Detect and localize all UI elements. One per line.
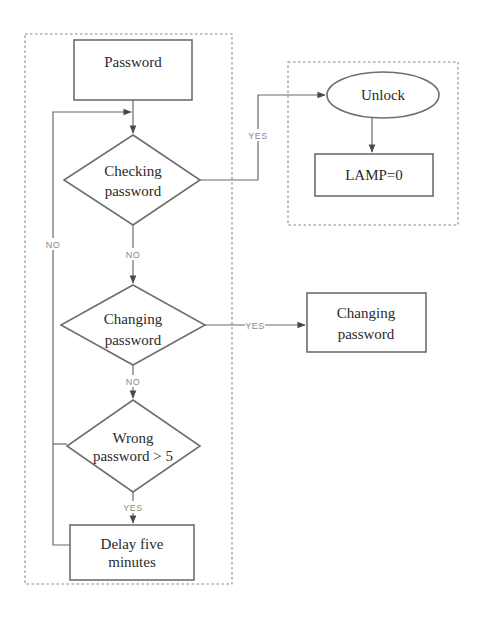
node-unlock-label: Unlock — [361, 87, 406, 103]
node-changing-action-line1: Changing — [337, 305, 396, 321]
node-changing-action-line2: password — [338, 326, 395, 342]
node-checking-line1: Checking — [104, 163, 162, 179]
edge-label-changing-yes: YES — [245, 321, 265, 331]
node-delay-five-minutes: Delay five minutes — [70, 525, 194, 580]
node-wrong-password-decision: Wrong password > 5 — [67, 400, 200, 492]
node-changing-password-decision: Changing password — [61, 285, 205, 365]
node-checking-line2: password — [105, 183, 162, 199]
edge-label-checking-yes: YES — [248, 131, 268, 141]
edge-label-changing-no: NO — [126, 377, 141, 387]
edge-label-wrong-yes: YES — [123, 503, 143, 513]
node-wrong-line1: Wrong — [112, 430, 154, 446]
flowchart-diagram: YES NO YES NO YES NO Password Checking p… — [0, 0, 483, 618]
node-delay-line2: minutes — [108, 554, 156, 570]
node-unlock: Unlock — [327, 72, 439, 118]
edge-label-wrong-no: NO — [46, 240, 61, 250]
node-password: Password — [74, 40, 192, 100]
node-changing-password-action: Changing password — [307, 293, 426, 352]
node-lamp: LAMP=0 — [315, 154, 433, 196]
node-password-label: Password — [104, 54, 162, 70]
edge-label-checking-no: NO — [126, 250, 141, 260]
node-delay-line1: Delay five — [101, 536, 164, 552]
node-wrong-line2: password > 5 — [93, 448, 173, 464]
node-changing-decision-line1: Changing — [104, 311, 163, 327]
node-changing-decision-line2: password — [105, 332, 162, 348]
node-checking-password-decision: Checking password — [64, 135, 200, 225]
node-lamp-label: LAMP=0 — [345, 167, 403, 183]
